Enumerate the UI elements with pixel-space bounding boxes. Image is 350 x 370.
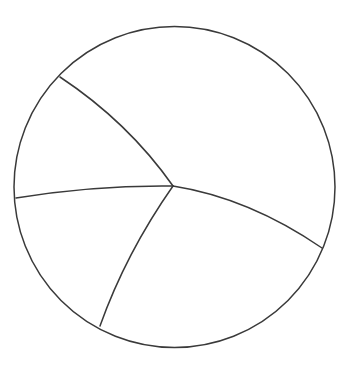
disk-partition-diagram xyxy=(0,0,350,370)
diagram-canvas xyxy=(0,0,350,370)
